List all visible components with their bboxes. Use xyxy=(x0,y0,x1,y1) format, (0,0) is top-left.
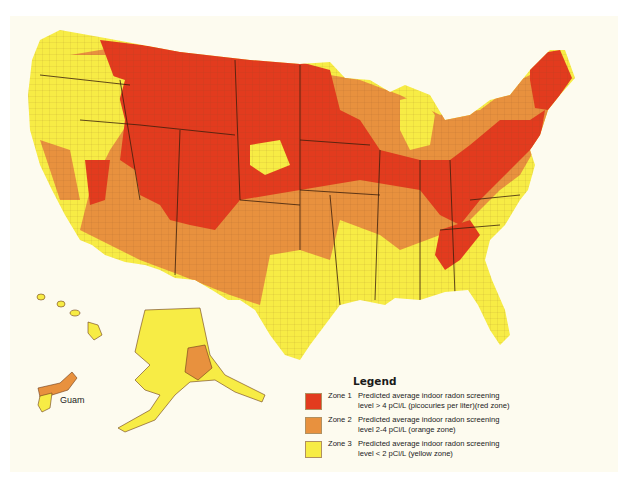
hawaii xyxy=(37,294,102,340)
guam xyxy=(38,372,77,412)
zone3-desc-line1: Predicted average indoor radon screening xyxy=(358,439,499,449)
alaska xyxy=(118,308,265,432)
zone2-swatch xyxy=(305,417,322,434)
zone2-name: Zone 2 xyxy=(328,415,358,425)
zone1-description: Predicted average indoor radon screening… xyxy=(358,391,509,411)
zone3-name: Zone 3 xyxy=(328,439,358,449)
guam-label: Guam xyxy=(60,395,85,405)
legend-title: Legend xyxy=(353,375,545,387)
legend: Legend Zone 1 Predicted average indoor r… xyxy=(305,375,545,463)
contiguous-us xyxy=(20,25,580,365)
zone3-swatch xyxy=(305,441,322,458)
zone1-desc-line2: level > 4 pCi/L (picocuries per liter)(r… xyxy=(358,401,509,411)
zone2-desc-line2: level 2-4 pCi/L (orange zone) xyxy=(358,425,499,435)
zone2-description: Predicted average indoor radon screening… xyxy=(358,415,499,435)
zone3-description: Predicted average indoor radon screening… xyxy=(358,439,499,459)
zone2-desc-line1: Predicted average indoor radon screening xyxy=(358,415,499,425)
legend-item-zone2: Zone 2 Predicted average indoor radon sc… xyxy=(305,415,545,435)
zone3-desc-line2: level < 2 pCi/L (yellow zone) xyxy=(358,449,499,459)
zone1-swatch xyxy=(305,393,322,410)
legend-item-zone3: Zone 3 Predicted average indoor radon sc… xyxy=(305,439,545,459)
zone1-name: Zone 1 xyxy=(328,391,358,401)
legend-item-zone1: Zone 1 Predicted average indoor radon sc… xyxy=(305,391,545,411)
zone1-desc-line1: Predicted average indoor radon screening xyxy=(358,391,509,401)
